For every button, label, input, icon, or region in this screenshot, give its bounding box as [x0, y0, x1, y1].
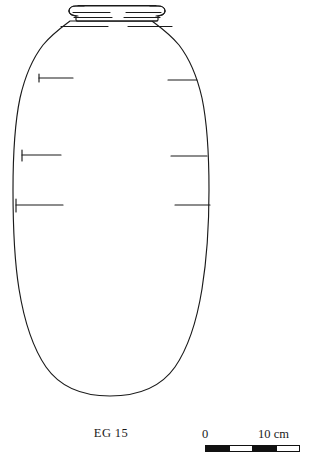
- rim-outer-profile: [69, 6, 165, 21]
- scale-segment-3: [252, 446, 276, 451]
- scale-bar: [205, 445, 300, 452]
- scale-segment-2: [229, 446, 253, 451]
- figure-root: EG 15 0 10 cm: [0, 0, 317, 461]
- vessel-profile-drawing: [0, 0, 317, 461]
- figure-caption: EG 15: [0, 426, 222, 441]
- scale-min-label: 0: [202, 427, 208, 442]
- scale-segment-1: [206, 446, 229, 451]
- scale-segment-4: [276, 446, 300, 451]
- scale-bar-group: 0 10 cm: [200, 427, 308, 453]
- vessel-body-outline: [13, 21, 209, 396]
- scale-max-label: 10 cm: [258, 427, 289, 442]
